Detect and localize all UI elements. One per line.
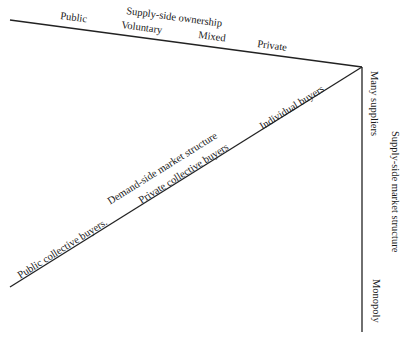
axes-lines [0, 0, 403, 341]
vertical-axis-title: Supply-side market structure [390, 131, 401, 252]
vertical-axis-label-monopoly: Monopoly [371, 279, 382, 323]
vertical-axis-label-many-suppliers: Many suppliers [369, 71, 380, 136]
top-axis-line [10, 20, 362, 67]
